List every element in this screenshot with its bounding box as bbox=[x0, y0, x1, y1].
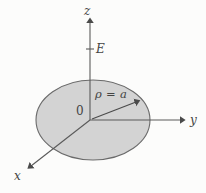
x-axis-label: x bbox=[14, 170, 21, 182]
z-axis-label: z bbox=[84, 5, 90, 17]
radius-label: ρ = a bbox=[95, 89, 127, 101]
field-tick-label: E bbox=[96, 43, 105, 55]
figure-container: z E y x 0 ρ = a bbox=[0, 0, 206, 193]
origin-label: 0 bbox=[76, 105, 84, 117]
y-axis-label: y bbox=[190, 114, 197, 126]
